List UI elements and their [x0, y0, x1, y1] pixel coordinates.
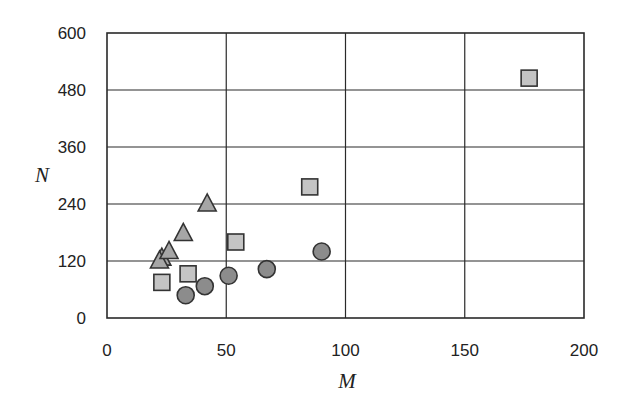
y-axis-ticks: 0120240360480600 — [58, 24, 86, 328]
y-tick-label: 0 — [77, 309, 86, 328]
square-marker — [180, 266, 196, 282]
triangle-marker — [174, 223, 192, 240]
x-tick-label: 50 — [217, 341, 236, 360]
x-tick-label: 100 — [331, 341, 359, 360]
circle-marker — [258, 261, 275, 278]
square-marker — [302, 179, 318, 195]
y-tick-label: 600 — [58, 24, 86, 43]
x-tick-label: 0 — [102, 341, 111, 360]
scatter-chart: 050100150200 0120240360480600 N M — [0, 0, 626, 409]
circle-marker — [313, 243, 330, 260]
square-marker — [228, 234, 244, 250]
circle-marker — [177, 287, 194, 304]
x-axis-ticks: 050100150200 — [102, 341, 598, 360]
circle-marker — [220, 267, 237, 284]
y-tick-label: 240 — [58, 195, 86, 214]
y-axis-title: N — [34, 163, 50, 187]
x-axis-title: M — [337, 369, 357, 393]
x-tick-label: 150 — [451, 341, 479, 360]
triangle-marker — [198, 194, 216, 211]
gridlines — [107, 33, 584, 318]
y-tick-label: 480 — [58, 81, 86, 100]
square-marker — [521, 70, 537, 86]
y-tick-label: 360 — [58, 138, 86, 157]
data-points — [150, 70, 537, 304]
y-tick-label: 120 — [58, 252, 86, 271]
x-tick-label: 200 — [570, 341, 598, 360]
square-marker — [154, 274, 170, 290]
circle-marker — [196, 278, 213, 295]
